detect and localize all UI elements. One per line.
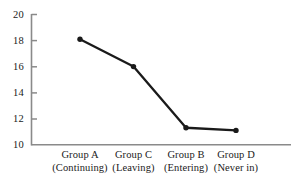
chart-figure: 20 18 16 14 12 10 Group A (Continuing) G… bbox=[0, 0, 305, 181]
y-tick-label-wrap: 10 bbox=[2, 139, 24, 150]
data-point bbox=[233, 128, 238, 133]
x-tick-label-name: Group D bbox=[205, 148, 267, 161]
data-point bbox=[131, 64, 136, 69]
data-point bbox=[183, 125, 188, 130]
y-tick-label: 12 bbox=[2, 113, 24, 124]
y-tick-label: 16 bbox=[2, 61, 24, 72]
data-point bbox=[77, 37, 82, 42]
y-tick-marks bbox=[32, 15, 38, 120]
data-line bbox=[80, 39, 236, 130]
y-tick-label-wrap: 18 bbox=[2, 35, 24, 46]
y-tick-label-wrap: 14 bbox=[2, 87, 24, 98]
y-tick-label-wrap: 20 bbox=[2, 9, 24, 20]
x-tick-label-group: Group D (Never in) bbox=[205, 148, 267, 174]
y-tick-label-wrap: 16 bbox=[2, 61, 24, 72]
y-tick-label: 20 bbox=[2, 9, 24, 20]
plot-area: 20 18 16 14 12 10 Group A (Continuing) G… bbox=[0, 0, 305, 181]
y-tick-label: 18 bbox=[2, 35, 24, 46]
y-tick-label: 14 bbox=[2, 87, 24, 98]
x-tick-label-sub: (Never in) bbox=[205, 161, 267, 174]
y-tick-label: 10 bbox=[2, 139, 24, 150]
y-tick-label-wrap: 12 bbox=[2, 113, 24, 124]
